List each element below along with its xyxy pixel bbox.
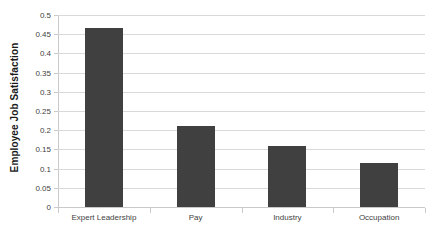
y-axis-tick-label: 0.35: [35, 68, 51, 77]
y-axis-tick-label: 0.1: [40, 164, 51, 173]
y-axis-tick-label: 0.15: [35, 145, 51, 154]
bar-chart: Employee Job Satisfaction 0.50.450.40.35…: [0, 0, 432, 238]
x-axis-category-label: Occupation: [333, 213, 425, 229]
bars-layer: [58, 15, 425, 207]
bar-slot: [58, 15, 150, 207]
bar-slot: [150, 15, 242, 207]
plot-area: 0.50.450.40.350.30.250.20.150.10.050: [58, 15, 425, 207]
y-axis-title: Employee Job Satisfaction: [0, 0, 30, 214]
bar-slot: [242, 15, 334, 207]
y-axis-tick-label: 0.45: [35, 30, 51, 39]
x-axis-separator: [425, 208, 426, 213]
y-axis-tick-label: 0.2: [40, 126, 51, 135]
y-axis-tick-label: 0.5: [40, 11, 51, 20]
bar: [268, 146, 306, 207]
y-axis-tick-label: 0.05: [35, 183, 51, 192]
x-axis-category-label: Expert Leadership: [58, 213, 150, 229]
y-axis-tick-label: 0.3: [40, 87, 51, 96]
x-axis-category-label: Industry: [242, 213, 334, 229]
y-axis-tick-label: 0: [47, 203, 51, 212]
y-axis-tick-label: 0.4: [40, 49, 51, 58]
y-axis-tick-label: 0.25: [35, 107, 51, 116]
bar: [177, 126, 215, 207]
x-axis-category-label: Pay: [150, 213, 242, 229]
x-axis-labels: Expert LeadershipPayIndustryOccupation: [58, 213, 425, 229]
bar-slot: [333, 15, 425, 207]
bar: [85, 28, 123, 207]
y-axis-title-text: Employee Job Satisfaction: [10, 42, 21, 172]
bar: [360, 163, 398, 207]
